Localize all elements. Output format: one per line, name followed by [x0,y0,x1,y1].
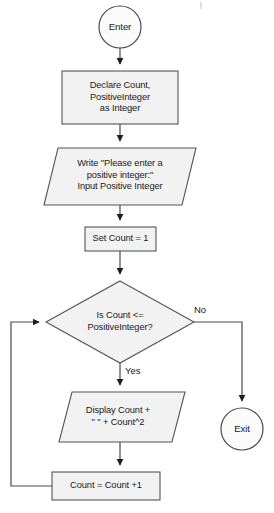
io-display-count [59,392,185,442]
edge-label-no: No [194,305,206,315]
terminator-exit [221,408,263,450]
process-increment-count [52,472,160,500]
terminator-enter [99,6,141,48]
io-write-input [44,148,196,205]
decision-count-check [46,281,194,363]
process-set-count [85,227,156,251]
connector-increment-to-decision-loop [11,322,52,486]
process-declare [62,71,178,124]
flowchart-canvas: Enter Declare Count, PositiveInteger as … [0,0,274,513]
flowchart-svg [0,0,274,513]
connector-decision-no-to-exit [194,322,242,401]
edge-label-yes: Yes [125,366,141,376]
